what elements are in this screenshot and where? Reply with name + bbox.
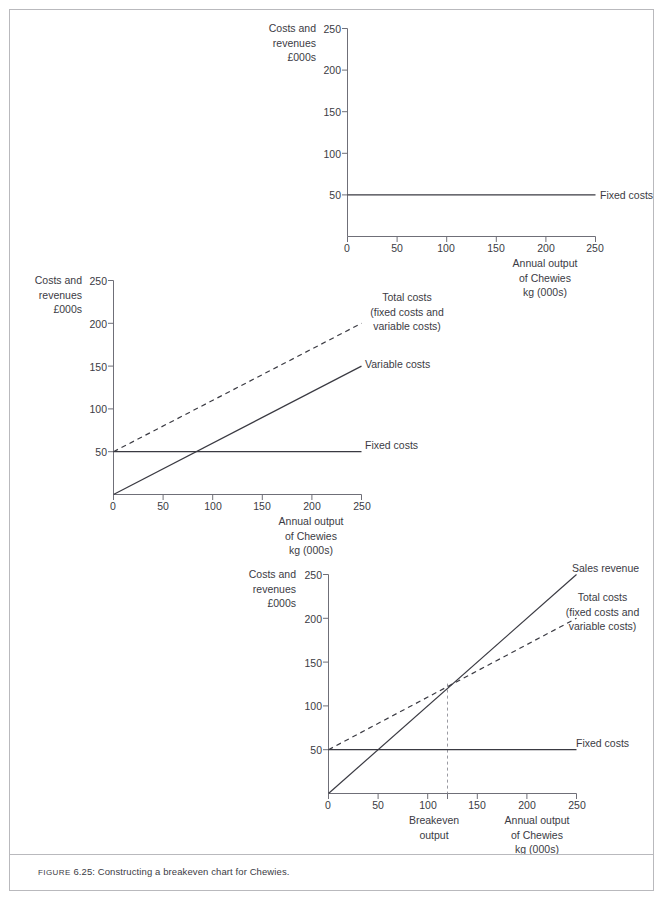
figure-area: Costs and revenues £000s 250 200 150 100… xyxy=(10,10,653,855)
y-axis-title-line3: £000s xyxy=(246,50,316,65)
x-axis-title-line2: of Chewies xyxy=(477,828,597,843)
total-costs-line2: (fixed costs and xyxy=(540,605,664,620)
chart2-x-tick-label-200: 200 xyxy=(297,499,327,513)
chart2-series-label-variable-costs: Variable costs xyxy=(365,357,430,372)
chart1-x-tick-label-0: 0 xyxy=(332,241,362,255)
chart3-x-axis-title: Annual output of Chewies kg (000s) xyxy=(477,813,597,857)
chart1-y-axis-title: Costs and revenues £000s xyxy=(246,21,316,65)
chart3-y-tick-label-100: 100 xyxy=(300,699,322,713)
chart3-series-label-total-costs: Total costs (fixed costs and variable co… xyxy=(540,590,664,634)
chart3-series-label-fixed-costs: Fixed costs xyxy=(576,736,629,751)
y-axis-title-line2: revenues xyxy=(226,582,296,597)
chart2-x-tick-label-0: 0 xyxy=(98,499,128,513)
chart2-y-tick-label-200: 200 xyxy=(85,317,107,331)
chart2-series-label-fixed-costs: Fixed costs xyxy=(365,438,418,453)
chart2-x-tick-label-100: 100 xyxy=(198,499,228,513)
chart3-x-tick-label-100: 100 xyxy=(413,798,443,812)
x-axis-title-line1: Annual output xyxy=(485,256,605,271)
chart3-y-tick-label-200: 200 xyxy=(300,612,322,626)
chart3-y-tick-label-150: 150 xyxy=(300,656,322,670)
y-axis-title-line1: Costs and xyxy=(12,273,82,288)
chart1-x-tick-label-100: 100 xyxy=(431,241,461,255)
x-axis-title-line2: of Chewies xyxy=(485,271,605,286)
chart3-y-axis-title: Costs and revenues £000s xyxy=(226,567,296,611)
total-costs-line2: (fixed costs and xyxy=(347,305,467,320)
x-axis-title-line1: Annual output xyxy=(251,514,371,529)
figure-caption: FIGURE 6.25: Constructing a breakeven ch… xyxy=(38,866,290,877)
y-axis-title-line2: revenues xyxy=(246,36,316,51)
chart3-x-tick-label-150: 150 xyxy=(462,798,492,812)
chart1-y-tick-label-50: 50 xyxy=(319,188,341,202)
y-axis-title-line3: £000s xyxy=(12,302,82,317)
y-axis-title-line2: revenues xyxy=(12,288,82,303)
figure-caption-bar: FIGURE 6.25: Constructing a breakeven ch… xyxy=(10,854,653,890)
breakeven-line1: Breakeven xyxy=(379,813,489,828)
chart2-x-tick-label-150: 150 xyxy=(247,499,277,513)
chart3-breakeven-annotation-label: Breakeven output xyxy=(379,813,489,842)
chart2-x-tick-label-250: 250 xyxy=(347,499,377,513)
chart1-y-tick-label-250: 250 xyxy=(319,22,341,36)
chart1-x-tick-label-200: 200 xyxy=(531,241,561,255)
y-axis-title-line1: Costs and xyxy=(246,21,316,36)
series-variable-costs xyxy=(114,366,362,494)
chart2-series-label-total-costs: Total costs (fixed costs and variable co… xyxy=(347,290,467,334)
chart-fixed-costs-plot xyxy=(339,20,599,245)
chart3-series-label-sales-revenue: Sales revenue xyxy=(572,561,639,576)
total-costs-line3: variable costs) xyxy=(540,619,664,634)
chart1-y-tick-label-100: 100 xyxy=(319,147,341,161)
y-axis-title-line3: £000s xyxy=(226,596,296,611)
x-axis-title-line3: kg (000s) xyxy=(485,285,605,300)
chart2-y-tick-label-250: 250 xyxy=(85,274,107,288)
total-costs-line1: Total costs xyxy=(540,590,664,605)
chart2-x-tick-label-50: 50 xyxy=(148,499,178,513)
series-total-costs xyxy=(114,323,362,451)
chart3-x-tick-label-200: 200 xyxy=(512,798,542,812)
figure-caption-number: 6.25: xyxy=(73,866,95,877)
x-axis-title-line3: kg (000s) xyxy=(251,543,371,558)
chart1-x-axis-title: Annual output of Chewies kg (000s) xyxy=(485,256,605,300)
chart3-y-tick-label-250: 250 xyxy=(300,568,322,582)
total-costs-line3: variable costs) xyxy=(347,319,467,334)
chart2-x-axis-title: Annual output of Chewies kg (000s) xyxy=(251,514,371,558)
chart3-x-tick-label-250: 250 xyxy=(562,798,592,812)
chart3-y-tick-label-50: 50 xyxy=(300,743,322,757)
x-axis-title-line2: of Chewies xyxy=(251,529,371,544)
figure-caption-prefix: FIGURE xyxy=(38,868,71,877)
chart2-y-axis-title: Costs and revenues £000s xyxy=(12,273,82,317)
chart2-y-tick-label-150: 150 xyxy=(85,360,107,374)
chart1-y-tick-label-150: 150 xyxy=(319,105,341,119)
chart1-x-tick-label-150: 150 xyxy=(481,241,511,255)
page-frame: Costs and revenues £000s 250 200 150 100… xyxy=(9,9,654,891)
breakeven-line2: output xyxy=(379,828,489,843)
figure-caption-text: Constructing a breakeven chart for Chewi… xyxy=(98,866,290,877)
chart2-y-tick-label-100: 100 xyxy=(85,402,107,416)
total-costs-line1: Total costs xyxy=(347,290,467,305)
y-axis-title-line1: Costs and xyxy=(226,567,296,582)
chart3-x-tick-label-50: 50 xyxy=(363,798,393,812)
chart3-x-tick-label-0: 0 xyxy=(313,798,343,812)
chart1-x-tick-label-50: 50 xyxy=(382,241,412,255)
chart1-y-tick-label-200: 200 xyxy=(319,63,341,77)
chart2-y-tick-label-50: 50 xyxy=(85,445,107,459)
chart1-x-tick-label-250: 250 xyxy=(580,241,610,255)
x-axis-title-line1: Annual output xyxy=(477,813,597,828)
chart-total-costs-plot xyxy=(105,272,365,503)
chart1-series-label-fixed-costs: Fixed costs xyxy=(600,188,653,203)
